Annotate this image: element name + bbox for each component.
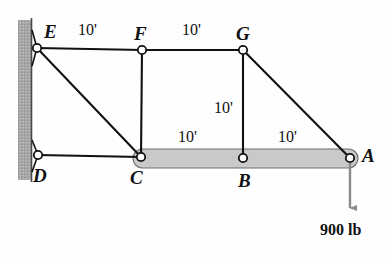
dimension-label-fg: 10' [182,22,201,38]
node-label-d: D [33,166,47,185]
member-e-f [37,48,142,50]
node-label-c: C [130,168,143,187]
dimension-label-ef: 10' [78,22,97,38]
dimension-label-gb: 10' [214,100,233,116]
node-label-f: F [134,24,147,43]
truss-figure: E F G D C B A 10' 10' 10' 10' 10' 900 lb [0,0,388,257]
wall-support [18,18,32,182]
joint-f [138,46,146,54]
joint-g [239,46,247,54]
member-f-c [141,50,142,157]
joint-a [346,154,354,162]
node-label-a: A [362,146,375,165]
dimension-label-cb: 10' [178,129,197,145]
member-d-c [38,155,141,157]
node-label-g: G [236,24,250,43]
dimension-label-ba: 10' [278,129,297,145]
joint-d [34,151,42,159]
node-label-b: B [238,171,251,190]
node-label-e: E [44,22,57,41]
joint-e [33,44,41,52]
member-e-c [37,48,141,157]
load-label: 900 lb [320,222,361,238]
joint-b [239,154,247,162]
joint-c [137,153,145,161]
